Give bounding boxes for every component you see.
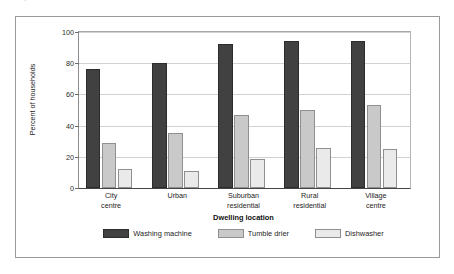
x-axis-category-label-line: residential (210, 201, 276, 211)
y-axis-tick-label: 80 (66, 59, 74, 68)
bar-group (145, 32, 211, 188)
y-axis-tick-label: 60 (66, 90, 74, 99)
bar[interactable] (102, 143, 117, 188)
plot-area: 020406080100 (78, 31, 411, 189)
y-axis-tick-label: 0 (70, 184, 74, 193)
clipped-text-line: aiipii iiiai ii ai i aiiiii ii iiiii i i… (14, 0, 135, 1)
x-axis-title: Dwelling location (78, 213, 409, 222)
x-axis-category-label-line: Rural (277, 191, 343, 201)
y-axis-tick-label: 40 (66, 121, 74, 130)
x-axis-category-label-line: Village (343, 191, 409, 201)
bar[interactable] (234, 115, 249, 188)
legend-label: Tumble drier (248, 229, 289, 238)
x-axis-category-label-line: centre (78, 201, 144, 211)
legend-color-swatch (315, 229, 341, 238)
x-axis-category-label: Urban (144, 191, 210, 201)
bar[interactable] (316, 148, 331, 188)
bar-group (344, 32, 410, 188)
legend-label: Washing machine (133, 229, 191, 238)
bar[interactable] (300, 110, 315, 188)
legend-color-swatch (103, 229, 129, 238)
legend-item[interactable]: Washing machine (103, 229, 191, 238)
bar[interactable] (284, 41, 299, 188)
x-axis-category-label-line: Urban (144, 191, 210, 201)
bar[interactable] (218, 44, 233, 188)
bar-chart: Percent of households 020406080100 Dwell… (16, 17, 441, 259)
bar-group (278, 32, 344, 188)
x-axis-category-label: Ruralresidential (277, 191, 343, 210)
x-axis-category-label-line: City (78, 191, 144, 201)
bar[interactable] (168, 133, 183, 188)
bar[interactable] (383, 149, 398, 188)
x-axis-category-label: Citycentre (78, 191, 144, 210)
bar-group (211, 32, 277, 188)
bar[interactable] (118, 169, 133, 189)
chart-legend: Washing machineTumble drierDishwasher (78, 229, 409, 238)
x-axis-category-label-line: Suburban (210, 191, 276, 201)
bar[interactable] (184, 171, 199, 188)
bar[interactable] (351, 41, 366, 188)
x-axis-category-label: Villagecentre (343, 191, 409, 210)
x-axis-category-label: Suburbanresidential (210, 191, 276, 210)
chart-figure-frame: Percent of households 020406080100 Dwell… (15, 16, 440, 258)
y-axis-tick-label: 20 (66, 152, 74, 161)
y-axis-tick-label: 100 (62, 28, 74, 37)
legend-color-swatch (218, 229, 244, 238)
bar[interactable] (250, 159, 265, 188)
bar[interactable] (86, 69, 101, 188)
bar[interactable] (367, 105, 382, 188)
y-axis-title: Percent of households (28, 35, 37, 165)
bar[interactable] (152, 63, 167, 188)
bar-group (79, 32, 145, 188)
legend-label: Dishwasher (345, 229, 384, 238)
legend-item[interactable]: Dishwasher (315, 229, 384, 238)
y-axis-tick-mark (75, 188, 79, 189)
x-axis-category-label-line: centre (343, 201, 409, 211)
x-axis-category-label-line: residential (277, 201, 343, 211)
legend-item[interactable]: Tumble drier (218, 229, 289, 238)
clipped-text-artifact: aiipii iiiai ii ai i aiiiii ii iiiii i i… (0, 0, 454, 9)
